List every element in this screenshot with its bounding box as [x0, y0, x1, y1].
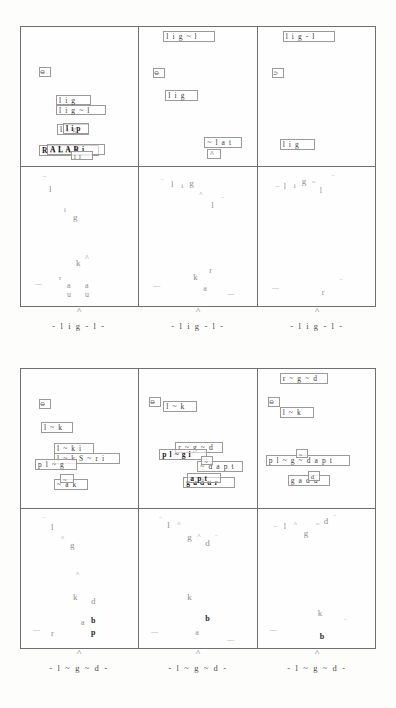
faint-glyph: l	[284, 523, 286, 531]
cell-bottom-1[interactable]: ⊖l ~ kl ~ k il ~ k S ~ r ip l ~ g~ a k~	[21, 369, 138, 508]
caption-hat-icon: ^	[20, 307, 138, 315]
faint-glyph: k	[187, 593, 192, 602]
faint-glyph: ‾	[43, 517, 45, 524]
figure-top-row-upper: ⊖l i gl i g ~ ll i gl i pR A L A RA L A …	[21, 27, 375, 166]
caption-text: - l i g - l -	[258, 319, 376, 333]
faint-glyph: ‾	[215, 535, 217, 542]
cell-top-2[interactable]: l i g ~ l⊖l i g~ l a t^	[138, 27, 256, 166]
faint-glyph: –	[274, 523, 278, 530]
ocr-token-box[interactable]: d	[308, 471, 320, 481]
ocr-token-box[interactable]: ~	[60, 474, 74, 483]
faint-glyph: ~	[312, 179, 316, 186]
faint-glyph: l	[320, 187, 322, 195]
figure-bottom-row-lower: ‾l^g^kdab—rp ‾l^g^d‾kb—a— –l^g~d‾k—‾b	[21, 508, 375, 648]
ocr-token-box[interactable]: l i g	[280, 139, 315, 150]
ocr-token-box[interactable]: l ~ k	[163, 401, 197, 412]
figure-top-row-lower: ‾ligk^raa—uu ‾lig^l‾kr—a— –lig~l‾—r‾	[21, 166, 375, 306]
ocr-token-box[interactable]: ⊖	[39, 67, 51, 77]
ocr-token-box[interactable]: ⊖	[39, 399, 51, 409]
figure-top: ⊖l i gl i g ~ ll i gl i pR A L A RA L A …	[20, 26, 378, 343]
caption-text: - l i g - l -	[139, 319, 257, 333]
figure-top-grid: ⊖l i gl i g ~ ll i gl i pR A L A RA L A …	[20, 26, 376, 307]
ocr-token-box[interactable]: l i g	[56, 95, 91, 105]
faint-glyph: ^	[199, 191, 202, 198]
ocr-token-box[interactable]: r ~ g ~ d	[280, 373, 328, 384]
ocr-token-box[interactable]: p l ~ g	[35, 459, 77, 470]
ocr-token-box[interactable]: l l	[71, 151, 93, 160]
ocr-token-box[interactable]: ~ l a t	[204, 137, 242, 148]
caption-bottom-3: ^ - l ~ g ~ d - +2	[258, 649, 376, 675]
cell-top-4[interactable]: ‾ligk^raa—uu	[21, 167, 138, 306]
faint-glyph: k	[76, 259, 81, 268]
ocr-token-box[interactable]: ~	[296, 449, 308, 458]
faint-glyph: ‾	[340, 279, 342, 286]
figure-bottom-row-upper: ⊖l ~ kl ~ k il ~ k S ~ r ip l ~ g~ a k~ …	[21, 369, 375, 508]
faint-glyph: b	[91, 617, 95, 625]
ocr-token-box[interactable]: ⊃	[272, 68, 284, 78]
ocr-token-box[interactable]: l ~ k	[280, 407, 314, 418]
ocr-token-box[interactable]: ~	[201, 456, 213, 465]
cell-top-6[interactable]: –lig~l‾—r‾	[257, 167, 375, 306]
cell-bottom-4[interactable]: ‾l^g^kdab—rp	[21, 509, 138, 648]
faint-glyph: —	[227, 637, 234, 644]
cell-top-1[interactable]: ⊖l i gl i g ~ ll i gl i pR A L A RA L A …	[21, 27, 138, 166]
faint-glyph: g	[70, 541, 75, 550]
faint-glyph: r	[322, 289, 325, 297]
ocr-token-box[interactable]: ⊖	[268, 397, 280, 407]
faint-glyph: g	[187, 533, 192, 542]
ocr-token-box[interactable]: l i g	[165, 90, 198, 101]
ocr-token-box[interactable]: l i g - l	[283, 31, 335, 42]
faint-glyph: i	[181, 183, 183, 190]
ocr-token-box[interactable]: ⊖	[153, 68, 165, 78]
faint-glyph: r	[51, 629, 54, 638]
ocr-token-box[interactable]: ⊖	[149, 397, 161, 407]
faint-glyph: ^	[85, 255, 89, 263]
faint-glyph: k	[73, 593, 78, 602]
ocr-token-box[interactable]: p l ~ g ~ d a p t	[266, 455, 350, 466]
faint-glyph: ^	[197, 533, 200, 540]
caption-hat-icon: ^	[20, 649, 138, 657]
caption-text: - l ~ g ~ d -	[258, 661, 376, 675]
faint-glyph: ‾	[159, 517, 161, 524]
faint-glyph: p	[91, 629, 95, 637]
caption-top-2: ^ - l i g - l -	[139, 307, 257, 333]
caption-top-3: ^ - l i g - l - +2	[258, 307, 376, 333]
faint-glyph: g	[302, 177, 307, 186]
caption-text: - l ~ g ~ d -	[20, 661, 138, 675]
faint-glyph: l	[51, 523, 54, 532]
cell-bottom-3[interactable]: r ~ g ~ d⊖l ~ kp l ~ g ~ d a p t~g a d u…	[257, 369, 375, 508]
faint-glyph: –	[276, 183, 280, 190]
faint-glyph: ^	[61, 535, 64, 542]
faint-glyph: g	[304, 529, 309, 538]
faint-glyph: d	[324, 517, 329, 526]
ocr-token-box[interactable]: l i g ~ l	[163, 31, 215, 42]
faint-glyph: i	[294, 183, 296, 190]
cell-top-5[interactable]: ‾lig^l‾kr—a—	[138, 167, 256, 306]
ocr-token-box[interactable]: l i g ~ l	[56, 105, 106, 115]
cell-top-3[interactable]: l i g - l⊃l i g	[257, 27, 375, 166]
faint-glyph: ^	[177, 521, 180, 528]
faint-glyph: l	[284, 183, 286, 191]
ocr-token-box[interactable]: l i p	[63, 123, 89, 134]
ocr-token-box[interactable]: p l ~ g i	[159, 449, 207, 460]
faint-glyph: ‾	[161, 179, 163, 186]
faint-glyph: —	[270, 627, 277, 634]
caption-text: - l i g - l -	[20, 319, 138, 333]
faint-glyph: l	[171, 181, 173, 189]
faint-glyph: l	[211, 201, 214, 210]
faint-glyph: ^	[76, 571, 79, 578]
faint-glyph: b	[205, 615, 209, 623]
caption-hat-icon: ^	[258, 649, 376, 657]
cell-bottom-2[interactable]: ⊖l ~ kr ~ g ~ dp l ~ g i~ d a p t~g a d …	[138, 369, 256, 508]
figure-top-captions: ^ - l i g - l - ^ - l i g - l - ^ - l i …	[20, 307, 376, 343]
caption-bottom-2: ^ - l ~ g ~ d -	[139, 649, 257, 675]
caption-text: - l ~ g ~ d -	[139, 661, 257, 675]
ocr-token-box[interactable]: ^	[207, 149, 221, 159]
figure-bottom-captions: ^ - l ~ g ~ d - ^ - l ~ g ~ d - ^ - l ~ …	[20, 649, 376, 685]
faint-glyph: ‾	[43, 177, 46, 185]
cell-bottom-5[interactable]: ‾l^g^d‾kb—a—	[138, 509, 256, 648]
ocr-token-box[interactable]: l ~ k	[41, 422, 73, 433]
caption-hat-icon: ^	[139, 307, 257, 315]
cell-bottom-6[interactable]: –l^g~d‾k—‾b	[257, 509, 375, 648]
ocr-token-box[interactable]: a p t	[187, 473, 221, 483]
